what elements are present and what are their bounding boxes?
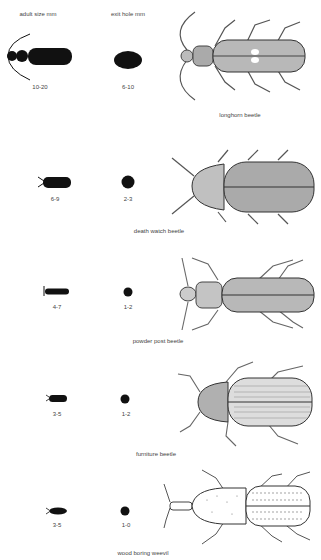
species-label: wood boring weevil xyxy=(117,550,168,556)
exit-hole-value: 2-3 xyxy=(124,196,133,202)
powder-post-beetle-illustration-icon xyxy=(178,258,318,333)
exit-hole-value: 1-0 xyxy=(122,522,131,528)
exit-hole-value: 6-10 xyxy=(122,84,134,90)
adult-size-value: 6-9 xyxy=(51,196,60,202)
exit-hole-value: 1-2 xyxy=(122,411,131,417)
weevil-illustration-icon xyxy=(162,462,312,552)
adult-size-header: adult size mm xyxy=(19,11,56,17)
species-label: longhorn beetle xyxy=(219,112,260,118)
longhorn-beetle-illustration-icon xyxy=(175,10,315,100)
adult-size-value: 10-20 xyxy=(32,84,47,90)
exit-hole-icon xyxy=(120,394,130,404)
death-watch-beetle-illustration-icon xyxy=(168,148,318,228)
death-watch-silhouette-icon xyxy=(38,175,74,189)
weevil-silhouette-icon xyxy=(46,506,68,516)
exit-hole-icon xyxy=(120,506,130,516)
adult-size-value: 3-5 xyxy=(53,411,62,417)
powder-post-silhouette-icon xyxy=(43,286,71,296)
adult-size-value: 4-7 xyxy=(53,304,62,310)
exit-hole-icon xyxy=(123,287,133,297)
species-label: furniture beetle xyxy=(136,451,176,457)
species-label: death watch beetle xyxy=(134,228,184,234)
exit-hole-icon xyxy=(121,175,135,189)
longhorn-silhouette-icon xyxy=(2,32,72,82)
furniture-silhouette-icon xyxy=(46,393,68,403)
species-label: powder post beetle xyxy=(133,338,184,344)
exit-hole-icon xyxy=(113,50,143,70)
exit-hole-header: exit hole mm xyxy=(111,11,145,17)
exit-hole-value: 1-2 xyxy=(124,304,133,310)
furniture-beetle-illustration-icon xyxy=(178,362,318,447)
adult-size-value: 3-5 xyxy=(53,522,62,528)
